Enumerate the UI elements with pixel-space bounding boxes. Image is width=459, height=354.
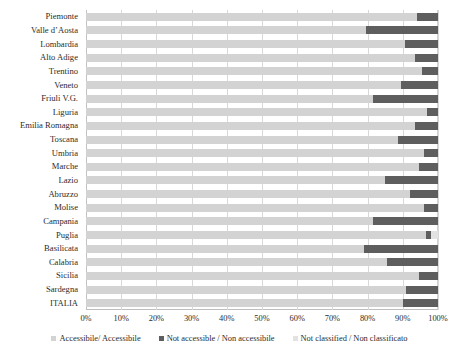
bar-segment <box>86 299 403 307</box>
bar-row <box>86 217 438 225</box>
category-axis-labels: PiemonteValle d’AostaLombardiaAlto Adige… <box>0 10 82 310</box>
bar-segment <box>373 217 438 225</box>
bar-row <box>86 81 438 89</box>
bar-segment <box>86 136 398 144</box>
bar-segment <box>86 217 373 225</box>
legend-swatch-icon <box>159 336 164 341</box>
bar-segment <box>86 40 405 48</box>
bar-segment <box>422 67 438 75</box>
bar-segment <box>373 95 438 103</box>
bar-segment <box>86 26 366 34</box>
bar-segment <box>86 258 387 266</box>
legend-item: Accessibile/ Accessibile <box>51 333 140 344</box>
x-tick-label: 80% <box>360 313 375 324</box>
bar-row <box>86 149 438 157</box>
legend-swatch-icon <box>293 336 298 341</box>
bar-row <box>86 122 438 130</box>
bar-row <box>86 54 438 62</box>
bar-segment <box>86 204 424 212</box>
bar-segment <box>86 176 385 184</box>
bar-segment <box>401 81 438 89</box>
legend-item: Not accessible / Non accessibile <box>159 333 275 344</box>
x-tick-label: 50% <box>254 313 269 324</box>
category-label: Veneto <box>54 81 78 90</box>
bar-segment <box>424 149 438 157</box>
category-label: Umbria <box>52 149 78 158</box>
bar-segment <box>86 122 415 130</box>
bar-segment <box>86 163 419 171</box>
x-axis-tick-labels: 0%10%20%30%40%50%60%70%80%90%100% <box>86 313 438 327</box>
bar-segment <box>410 190 438 198</box>
category-label: Sardegna <box>46 285 78 294</box>
bar-segment <box>86 81 401 89</box>
x-tick-label: 40% <box>219 313 234 324</box>
x-tick-label: 100% <box>428 313 448 324</box>
category-label: ITALIA <box>50 299 78 308</box>
bar-segment <box>86 245 364 253</box>
bar-segment <box>419 272 438 280</box>
category-label: Liguria <box>53 108 78 117</box>
category-label: Abruzzo <box>48 190 78 199</box>
bar-segment <box>431 231 438 239</box>
bar-segment <box>424 204 438 212</box>
legend-label: Accessibile/ Accessibile <box>59 333 140 344</box>
gridline-100 <box>438 10 439 310</box>
bar-segment <box>406 286 438 294</box>
bar-segment <box>86 67 422 75</box>
category-label: Trentino <box>49 67 78 76</box>
legend-label: Not classified / Non classificato <box>301 333 408 344</box>
legend-label: Not accessible / Non accessibile <box>167 333 275 344</box>
bar-segment <box>385 176 438 184</box>
bar-segment <box>415 122 438 130</box>
bar-segment <box>405 40 438 48</box>
bar-segment <box>86 13 417 21</box>
bar-segment <box>86 231 426 239</box>
legend-item: Not classified / Non classificato <box>293 333 408 344</box>
category-label: Emilia Romagna <box>20 121 78 130</box>
category-label: Alto Adige <box>40 53 78 62</box>
bar-row <box>86 286 438 294</box>
bar-segment <box>86 54 415 62</box>
bar-segment <box>366 26 438 34</box>
bar-segment <box>417 13 438 21</box>
x-tick-label: 60% <box>290 313 305 324</box>
bar-segment <box>86 108 427 116</box>
bar-segment <box>364 245 438 253</box>
bar-row <box>86 26 438 34</box>
category-label: Toscana <box>50 135 78 144</box>
x-tick-label: 0% <box>80 313 91 324</box>
bar-row <box>86 13 438 21</box>
legend-swatch-icon <box>51 336 56 341</box>
x-tick-label: 20% <box>149 313 164 324</box>
x-tick-label: 30% <box>184 313 199 324</box>
bar-rows <box>86 10 438 310</box>
bar-row <box>86 67 438 75</box>
bar-segment <box>86 190 410 198</box>
bar-segment <box>86 272 419 280</box>
category-label: Marche <box>52 162 78 171</box>
x-tick-label: 10% <box>114 313 129 324</box>
category-label: Friuli V.G. <box>41 94 78 103</box>
category-label: Molise <box>54 203 78 212</box>
category-label: Sicilia <box>56 271 78 280</box>
x-tick-label: 70% <box>325 313 340 324</box>
category-label: Piemonte <box>46 12 78 21</box>
category-label: Basilicata <box>44 244 78 253</box>
bar-row <box>86 190 438 198</box>
plot-wrapper <box>86 10 438 310</box>
category-label: Calabria <box>49 258 78 267</box>
bar-row <box>86 299 438 307</box>
bar-segment <box>415 54 438 62</box>
category-label: Lombardia <box>40 40 78 49</box>
category-label: Puglia <box>56 231 78 240</box>
bar-row <box>86 272 438 280</box>
bar-segment <box>387 258 438 266</box>
bar-row <box>86 245 438 253</box>
bar-segment <box>427 108 438 116</box>
bar-row <box>86 176 438 184</box>
bar-segment <box>403 299 438 307</box>
bar-row <box>86 258 438 266</box>
category-label: Valle d’Aosta <box>31 26 78 35</box>
x-tick-label: 90% <box>395 313 410 324</box>
chart-legend: Accessibile/ AccessibileNot accessible /… <box>0 333 459 344</box>
